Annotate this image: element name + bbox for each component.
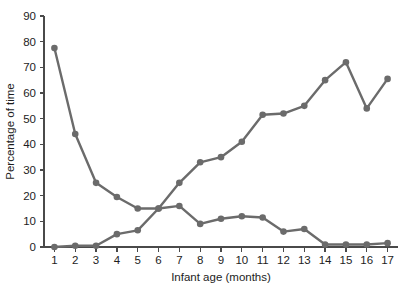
- data-point: [301, 103, 308, 110]
- data-point: [322, 77, 329, 84]
- chart-container: 0102030405060708090 Percentage of time 1…: [0, 0, 404, 283]
- data-point: [114, 194, 121, 201]
- y-tick-label: 90: [23, 10, 36, 22]
- x-tick-label: 12: [277, 254, 290, 266]
- data-point: [343, 241, 350, 248]
- data-point: [197, 159, 204, 166]
- data-point: [176, 180, 183, 187]
- x-tick-label: 7: [176, 254, 182, 266]
- x-tick-labels: 1234567891011121314151617: [51, 254, 394, 266]
- data-point: [343, 59, 350, 66]
- data-point: [280, 228, 287, 235]
- y-tick-label: 80: [23, 36, 36, 48]
- x-tick-label: 15: [340, 254, 353, 266]
- data-point: [72, 242, 79, 249]
- data-point: [114, 231, 121, 238]
- series-line: [54, 48, 387, 244]
- data-point: [93, 242, 100, 249]
- data-point: [176, 203, 183, 210]
- x-tick-label: 5: [135, 254, 141, 266]
- data-point: [322, 241, 329, 248]
- y-tick-label: 60: [23, 87, 36, 99]
- y-tick-label: 20: [23, 190, 36, 202]
- data-point: [239, 138, 246, 145]
- y-tick-labels: 0102030405060708090: [23, 10, 36, 253]
- data-point: [301, 226, 308, 233]
- data-series-layer: [51, 45, 391, 251]
- data-point: [72, 131, 79, 138]
- x-tick-label: 17: [381, 254, 394, 266]
- x-tick-label: 2: [72, 254, 78, 266]
- data-point: [51, 244, 58, 251]
- x-axis-title: Infant age (months): [171, 271, 271, 283]
- data-point: [134, 205, 141, 212]
- y-tick-label: 40: [23, 138, 36, 150]
- x-tick-label: 9: [218, 254, 224, 266]
- data-point: [384, 76, 391, 83]
- x-tick-label: 8: [197, 254, 203, 266]
- data-point: [197, 221, 204, 228]
- x-tick-label: 11: [257, 254, 269, 266]
- data-point: [384, 240, 391, 247]
- data-point: [259, 112, 266, 119]
- x-tick-label: 16: [360, 254, 373, 266]
- line-chart: 0102030405060708090 Percentage of time 1…: [0, 0, 404, 283]
- x-axis-group: 1234567891011121314151617 Infant age (mo…: [44, 247, 398, 283]
- x-tick-label: 10: [235, 254, 248, 266]
- data-point: [239, 213, 246, 220]
- data-point: [363, 105, 370, 112]
- y-tick-label: 70: [23, 61, 36, 73]
- data-point: [155, 205, 162, 212]
- data-point: [363, 241, 370, 248]
- x-tick-label: 3: [93, 254, 99, 266]
- data-point: [218, 154, 225, 161]
- data-point: [93, 180, 100, 187]
- data-point: [51, 45, 58, 52]
- data-point: [259, 214, 266, 221]
- x-tick-label: 1: [51, 254, 57, 266]
- y-tick-label: 50: [23, 113, 36, 125]
- x-tick-label: 14: [319, 254, 332, 266]
- x-tick-label: 6: [155, 254, 161, 266]
- data-point: [218, 215, 225, 222]
- series-decreasing-series: [51, 45, 391, 248]
- data-point: [134, 227, 141, 234]
- y-tick-label: 10: [23, 215, 36, 227]
- x-tick-label: 13: [298, 254, 311, 266]
- y-tick-label: 30: [23, 164, 36, 176]
- y-axis-group: 0102030405060708090 Percentage of time: [4, 10, 44, 253]
- y-tick-label: 0: [30, 241, 36, 253]
- x-tick-label: 4: [114, 254, 121, 266]
- y-axis-title: Percentage of time: [4, 83, 16, 180]
- data-point: [280, 110, 287, 117]
